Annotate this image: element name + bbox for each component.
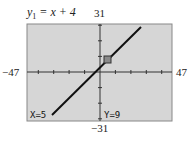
graph-screen: X=5 Y=9: [0, 0, 193, 141]
y-readout: Y=9: [104, 110, 120, 120]
x-readout: X=5: [30, 110, 46, 120]
trace-cursor: [104, 56, 111, 63]
